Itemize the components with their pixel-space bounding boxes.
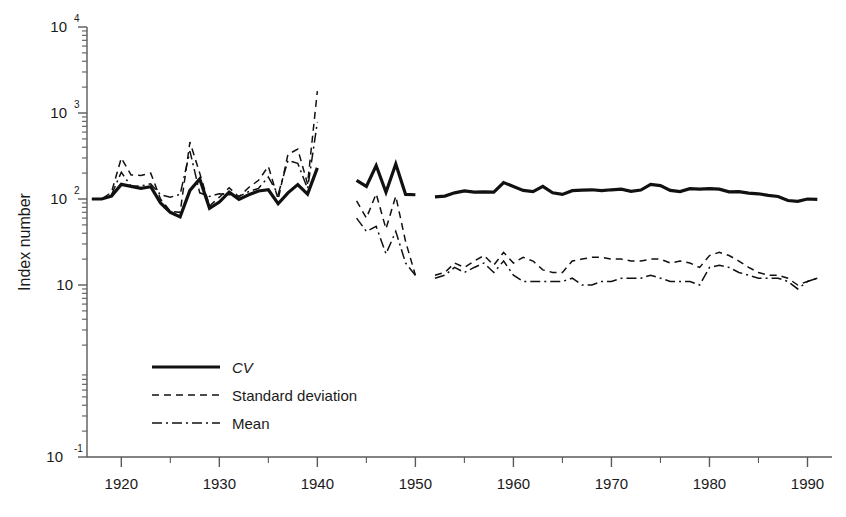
legend-label-standard-deviation: Standard deviation	[232, 387, 357, 404]
series-line-mean-seg2	[435, 261, 817, 289]
series-line-standard-deviation-seg1	[357, 194, 416, 275]
y-axis-title: Index number	[16, 192, 33, 291]
y-tick-label: 10	[50, 190, 67, 207]
x-tick-label: 1920	[105, 475, 138, 492]
y-tick-exponent: -1	[74, 443, 83, 454]
series-line-cv-seg1	[357, 164, 416, 195]
x-tick-label: 1950	[399, 475, 432, 492]
y-tick-label: 10	[50, 18, 67, 35]
x-tick-label: 1960	[497, 475, 530, 492]
chart-container: 1041031021010-11920193019401950196019701…	[0, 0, 846, 517]
y-tick-label: 10	[56, 276, 73, 293]
x-tick-label: 1940	[301, 475, 334, 492]
x-tick-label: 1990	[791, 475, 824, 492]
legend-label-mean: Mean	[232, 415, 270, 432]
y-tick-label: 10	[50, 104, 67, 121]
x-tick-label: 1930	[203, 475, 236, 492]
series-line-standard-deviation-seg2	[435, 252, 817, 285]
line-chart: 1041031021010-11920193019401950196019701…	[0, 0, 846, 517]
y-tick-label: 10	[46, 448, 63, 465]
y-tick-exponent: 2	[74, 185, 80, 196]
y-tick-exponent: 3	[74, 99, 80, 110]
legend-label-cv: CV	[232, 359, 255, 376]
x-tick-label: 1970	[595, 475, 628, 492]
y-tick-exponent: 4	[74, 13, 80, 24]
series-line-cv-seg2	[435, 183, 817, 202]
x-tick-label: 1980	[693, 475, 726, 492]
